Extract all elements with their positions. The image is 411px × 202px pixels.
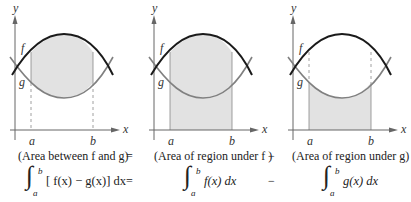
upper-limit: b (335, 166, 340, 176)
f-label: f (160, 41, 165, 55)
shaded-region-between (31, 34, 93, 98)
a-label: a (168, 134, 174, 148)
x-axis-arrow-icon (111, 128, 120, 133)
y-axis-arrow-icon (13, 15, 18, 24)
graph-area-under-g: y f g x a b (278, 0, 411, 148)
integral-sign-icon: ∫ (184, 163, 191, 189)
caption-minus: − (268, 149, 275, 164)
x-label: x (122, 122, 129, 136)
upper-limit: b (196, 166, 201, 176)
integral-row: ∫ b a [ f(x) − g(x)] dx = ∫ b a f(x) dx … (0, 165, 411, 201)
a-label: a (307, 134, 313, 148)
a-label: a (29, 134, 35, 148)
y-label: y (12, 1, 19, 15)
integrand: f(x) dx (204, 174, 236, 189)
integral-equals: = (126, 174, 133, 189)
x-axis-arrow-icon (389, 128, 398, 133)
b-label: b (229, 134, 235, 148)
caption-area-under-g: (Area of region under g) (292, 149, 409, 164)
integral-sign-icon: ∫ (26, 163, 33, 189)
f-label: f (299, 41, 304, 55)
lower-limit: a (191, 188, 196, 198)
b-label: b (90, 134, 96, 148)
x-axis-arrow-icon (250, 128, 259, 133)
g-curve (288, 57, 391, 98)
caption-area-between: (Area between f and g) (18, 149, 129, 164)
y-label: y (290, 1, 297, 15)
lower-limit: a (33, 188, 38, 198)
g-label: g (158, 75, 164, 89)
y-axis-arrow-icon (152, 15, 157, 24)
integrand: g(x) dx (343, 174, 378, 189)
shaded-region-under-f (170, 34, 232, 130)
integral-minus: − (268, 174, 275, 189)
graph-area-between: y f g x a b (0, 0, 137, 148)
g-label: g (297, 75, 303, 89)
f-label: f (21, 41, 26, 55)
graph-area-under-f: y f g x a b (139, 0, 276, 148)
x-label: x (261, 122, 268, 136)
f-curve (290, 34, 391, 75)
x-label: x (400, 122, 407, 136)
y-axis-arrow-icon (291, 15, 296, 24)
lower-limit: a (330, 188, 335, 198)
integral-sign-icon: ∫ (323, 163, 330, 189)
caption-equals: = (126, 149, 133, 164)
upper-limit: b (38, 166, 43, 176)
g-label: g (19, 75, 25, 89)
caption-area-under-f: (Area of region under f ) (154, 149, 272, 164)
caption-row: (Area between f and g) = (Area of region… (0, 149, 411, 165)
b-label: b (368, 134, 374, 148)
y-label: y (151, 1, 158, 15)
integrand: [ f(x) − g(x)] dx (46, 174, 126, 189)
